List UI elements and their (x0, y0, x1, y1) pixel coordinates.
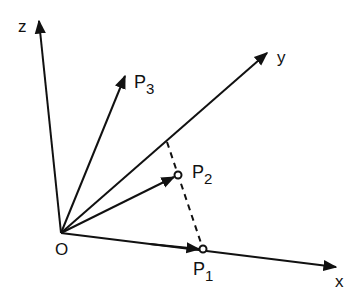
x-axis-label: x (335, 272, 344, 291)
projection-dashed-line (167, 142, 203, 249)
p3-vector (61, 76, 125, 233)
p2-point (175, 172, 182, 179)
p1-point (200, 246, 207, 253)
z-axis (39, 21, 61, 233)
p2-vector (61, 177, 174, 233)
origin-label: O (55, 240, 68, 259)
y-axis-label: y (277, 48, 286, 67)
z-axis-label: z (18, 17, 27, 36)
p1-vector (150, 244, 199, 249)
y-axis (61, 53, 267, 233)
p3-label: P3 (134, 72, 154, 97)
p1-label: P1 (193, 259, 213, 284)
p2-label: P2 (192, 162, 212, 187)
vector-diagram: z y x O P3 P2 P1 (0, 0, 364, 302)
